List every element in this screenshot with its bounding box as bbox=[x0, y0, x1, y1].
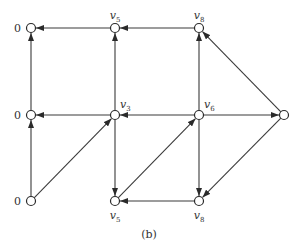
node-label-mm: v3 bbox=[120, 98, 131, 113]
node-tr bbox=[195, 24, 204, 33]
figure-caption: (b) bbox=[141, 228, 157, 241]
node-label-mr: v6 bbox=[204, 98, 215, 113]
node-mr bbox=[195, 111, 204, 120]
node-fr bbox=[280, 111, 289, 120]
directed-graph: 0v5v80v3v60v5v8 (b) bbox=[0, 0, 301, 249]
node-label-tm: v5 bbox=[110, 9, 121, 24]
node-label-tr: v8 bbox=[194, 9, 205, 24]
edge-fr-to-tr bbox=[202, 32, 280, 112]
node-mm bbox=[111, 111, 120, 120]
edge-fr-to-br bbox=[203, 118, 281, 197]
node-bl bbox=[27, 197, 36, 206]
edges-layer bbox=[31, 28, 281, 201]
node-label-bm: v5 bbox=[110, 209, 121, 224]
node-label-ml: 0 bbox=[14, 109, 21, 122]
node-label-bl: 0 bbox=[14, 195, 21, 208]
node-tm bbox=[111, 24, 120, 33]
node-bm bbox=[111, 197, 120, 206]
node-tl bbox=[27, 24, 36, 33]
node-label-br: v8 bbox=[194, 209, 205, 224]
edge-bm-to-mr bbox=[118, 119, 195, 198]
node-br bbox=[195, 197, 204, 206]
edge-bl-to-mm bbox=[34, 119, 111, 198]
node-ml bbox=[27, 111, 36, 120]
node-label-tl: 0 bbox=[14, 22, 21, 35]
